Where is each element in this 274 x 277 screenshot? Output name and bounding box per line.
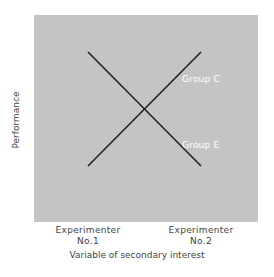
x-tick-experimenter-2: Experimenter No.2	[168, 225, 234, 247]
label-group-c: Group C	[182, 74, 220, 84]
tick-line: No.1	[55, 236, 121, 247]
plot-area: Group C Group E	[34, 15, 258, 222]
tick-line: Experimenter	[55, 225, 121, 236]
x-axis-label: Variable of secondary interest	[0, 250, 274, 260]
x-tick-experimenter-1: Experimenter No.1	[55, 225, 121, 247]
tick-line: No.2	[168, 236, 234, 247]
chart-lines	[34, 15, 258, 222]
y-axis-label: Performance	[11, 85, 21, 155]
label-group-e: Group E	[182, 140, 219, 150]
tick-line: Experimenter	[168, 225, 234, 236]
